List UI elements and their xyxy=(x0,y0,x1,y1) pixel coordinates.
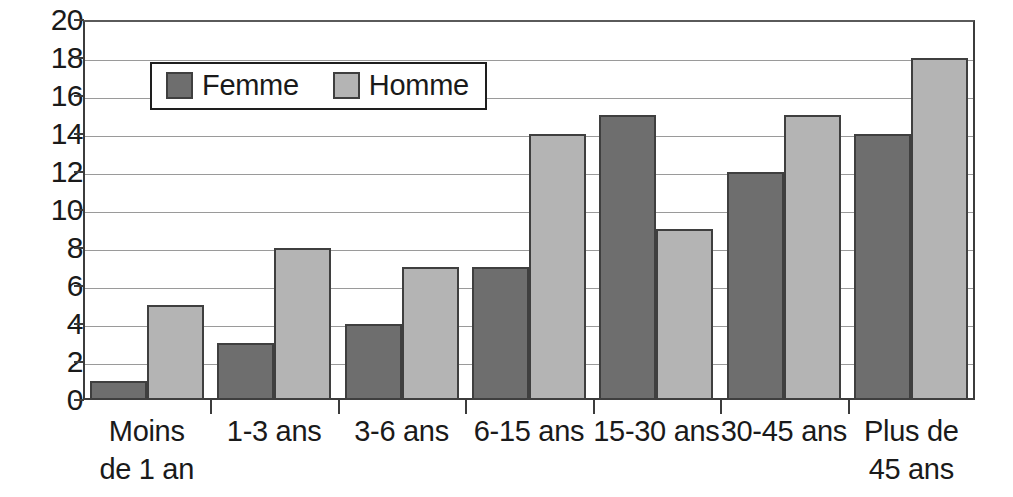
bar-femme-1 xyxy=(217,343,274,400)
bar-chart-figure: 02468101214161820 Moinsde 1 an1-3 ans3-6… xyxy=(0,0,1013,497)
x-label-line: 6-15 ans xyxy=(465,412,592,450)
y-axis: 02468101214161820 xyxy=(0,0,83,420)
bar-homme-0 xyxy=(147,305,204,400)
x-tick-mark xyxy=(848,400,850,414)
bar-femme-6 xyxy=(854,134,911,400)
legend-label-homme: Homme xyxy=(369,71,469,100)
bar-femme-0 xyxy=(90,381,147,400)
x-axis-label-2: 3-6 ans xyxy=(338,412,465,450)
legend-item-homme: Homme xyxy=(333,71,469,100)
legend-label-femme: Femme xyxy=(202,71,299,100)
x-label-line: de 1 an xyxy=(83,450,210,488)
x-axis-label-5: 30-45 ans xyxy=(720,412,847,450)
bar-homme-2 xyxy=(402,267,459,400)
bar-homme-5 xyxy=(784,115,841,400)
bar-femme-5 xyxy=(727,172,784,400)
x-label-line: 3-6 ans xyxy=(338,412,465,450)
x-label-line: 30-45 ans xyxy=(720,412,847,450)
x-tick-mark xyxy=(465,400,467,414)
x-axis-label-3: 6-15 ans xyxy=(465,412,592,450)
x-axis-labels: Moinsde 1 an1-3 ans3-6 ans6-15 ans15-30 … xyxy=(83,412,975,497)
bar-femme-2 xyxy=(345,324,402,400)
bar-homme-6 xyxy=(911,58,968,400)
x-tick-mark xyxy=(593,400,595,414)
legend-swatch-femme xyxy=(166,72,193,99)
bar-group xyxy=(720,20,847,400)
bar-homme-4 xyxy=(656,229,713,400)
x-tick-mark xyxy=(338,400,340,414)
x-label-line: 1-3 ans xyxy=(210,412,337,450)
bar-femme-4 xyxy=(599,115,656,400)
bar-group xyxy=(848,20,975,400)
x-axis-label-0: Moinsde 1 an xyxy=(83,412,210,489)
x-label-line: 15-30 ans xyxy=(593,412,720,450)
legend-swatch-homme xyxy=(333,72,360,99)
x-label-line: 45 ans xyxy=(848,450,975,488)
x-axis-label-4: 15-30 ans xyxy=(593,412,720,450)
x-axis-label-1: 1-3 ans xyxy=(210,412,337,450)
bar-femme-3 xyxy=(472,267,529,400)
chart-legend: Femme Homme xyxy=(150,62,487,110)
bar-group xyxy=(593,20,720,400)
x-label-line: Moins xyxy=(83,412,210,450)
bar-homme-3 xyxy=(529,134,586,400)
x-tick-mark xyxy=(210,400,212,414)
legend-item-femme: Femme xyxy=(166,71,299,100)
x-tick-mark xyxy=(720,400,722,414)
bar-homme-1 xyxy=(274,248,331,400)
x-axis-label-6: Plus de45 ans xyxy=(848,412,975,489)
x-label-line: Plus de xyxy=(848,412,975,450)
